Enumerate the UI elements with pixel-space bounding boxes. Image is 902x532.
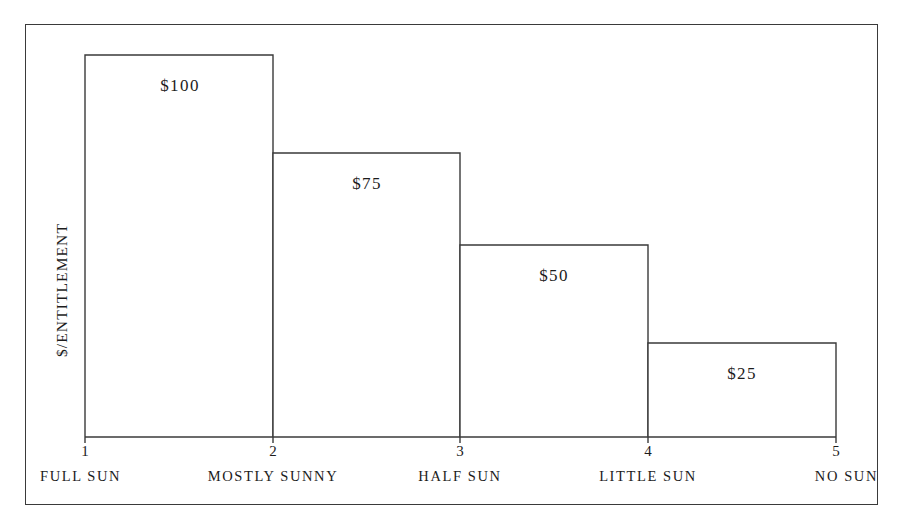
x-tick-number: 1 xyxy=(81,443,89,460)
x-category-label: MOSTLY SUNNY xyxy=(208,468,338,485)
y-axis-label: $/ENTITLEMENT xyxy=(53,223,71,357)
x-category-label: NO SUN xyxy=(815,468,878,485)
x-category-label: HALF SUN xyxy=(418,468,501,485)
figure-border xyxy=(25,24,878,505)
bar-value-label: $75 xyxy=(352,174,382,194)
x-tick-number: 4 xyxy=(644,443,652,460)
x-category-label: LITTLE SUN xyxy=(599,468,697,485)
x-tick-number: 3 xyxy=(456,443,464,460)
chart-figure: $/ENTITLEMENT $100$75$50$25 12345 FULL S… xyxy=(0,0,902,532)
x-category-label: FULL SUN xyxy=(40,468,121,485)
bar-value-label: $25 xyxy=(727,364,757,384)
x-tick-number: 2 xyxy=(269,443,277,460)
bar-value-label: $50 xyxy=(539,266,569,286)
x-tick-number: 5 xyxy=(832,443,840,460)
bar-value-label: $100 xyxy=(160,76,200,96)
